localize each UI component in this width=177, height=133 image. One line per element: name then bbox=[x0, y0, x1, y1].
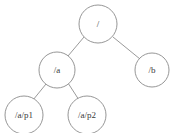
node-b-label: /b bbox=[148, 65, 156, 75]
node-ap2: /a/p2 bbox=[68, 96, 106, 133]
path-tree-diagram: / /a /b /a/p1 /a/p2 bbox=[0, 0, 177, 133]
node-b: /b bbox=[135, 53, 169, 87]
node-a-label: /a bbox=[54, 65, 61, 75]
node-root: / bbox=[79, 5, 117, 43]
node-ap1: /a/p1 bbox=[5, 96, 43, 133]
node-ap1-label: /a/p1 bbox=[15, 110, 33, 120]
edge-a-to-ap2 bbox=[68, 83, 79, 100]
tree-graph-canvas: / /a /b /a/p1 /a/p2 bbox=[0, 0, 177, 133]
node-ap2-label: /a/p2 bbox=[78, 110, 96, 120]
edge-root-to-b bbox=[113, 37, 140, 59]
node-a: /a bbox=[39, 52, 75, 88]
edge-a-to-ap1 bbox=[33, 84, 46, 100]
edge-root-to-a bbox=[68, 37, 84, 56]
